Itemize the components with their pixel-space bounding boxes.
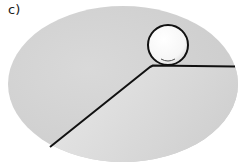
equilibrium-diagram <box>0 0 242 163</box>
ball <box>148 25 188 65</box>
